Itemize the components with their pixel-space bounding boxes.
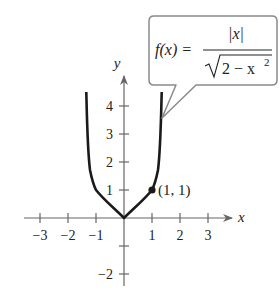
y-tick-label: 1 bbox=[106, 183, 113, 198]
formula-numerator: |x| bbox=[228, 25, 244, 43]
y-axis-label: y bbox=[112, 55, 121, 71]
y-axis: 4 3 2 1 −2 y bbox=[98, 55, 129, 286]
formula-callout: f(x) = |x| 2 − x 2 bbox=[149, 16, 277, 118]
x-tick-label: 2 bbox=[177, 228, 184, 243]
y-tick-label: −2 bbox=[98, 267, 113, 282]
x-tick-label: 1 bbox=[149, 228, 156, 243]
formula-denominator: 2 − x bbox=[222, 60, 255, 77]
formula-exponent: 2 bbox=[264, 56, 270, 68]
x-axis: −3 −2 −1 1 2 3 x bbox=[24, 209, 245, 243]
x-axis-label: x bbox=[237, 209, 245, 225]
y-tick-label: 4 bbox=[106, 99, 113, 114]
x-tick-label: −3 bbox=[33, 228, 48, 243]
x-tick-label: −1 bbox=[89, 228, 104, 243]
formula-lhs: f(x) = bbox=[155, 41, 192, 59]
x-tick-label: 3 bbox=[205, 228, 212, 243]
x-tick-label: −2 bbox=[61, 228, 76, 243]
function-graph-figure: −3 −2 −1 1 2 3 x 4 3 2 1 −2 y (1, 1) bbox=[0, 0, 279, 299]
y-tick-label: 2 bbox=[106, 155, 113, 170]
y-tick-label: 3 bbox=[106, 127, 113, 142]
point-label: (1, 1) bbox=[158, 182, 191, 199]
